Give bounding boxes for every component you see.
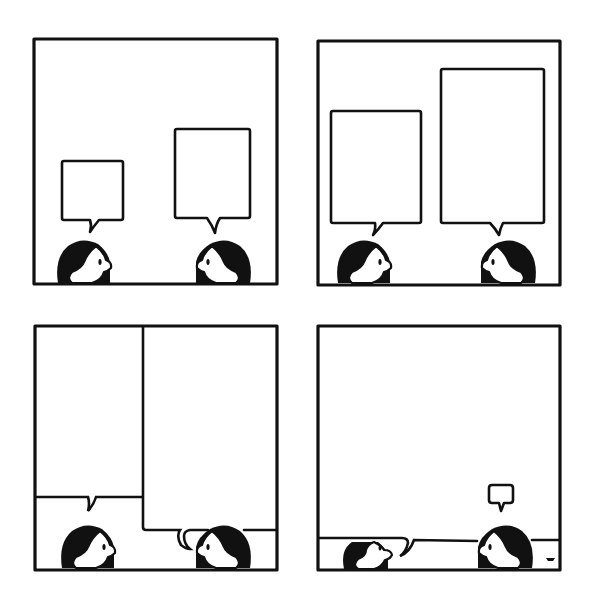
panel-1-bubble-right xyxy=(175,129,250,233)
panel-4 xyxy=(318,326,560,570)
panel-3 xyxy=(35,326,277,570)
panel-1 xyxy=(34,39,277,284)
panel-2-bubble-right xyxy=(441,69,544,235)
panel-2-bubble-left xyxy=(331,111,421,235)
comic-strip xyxy=(0,0,594,599)
panel-2 xyxy=(318,41,560,285)
